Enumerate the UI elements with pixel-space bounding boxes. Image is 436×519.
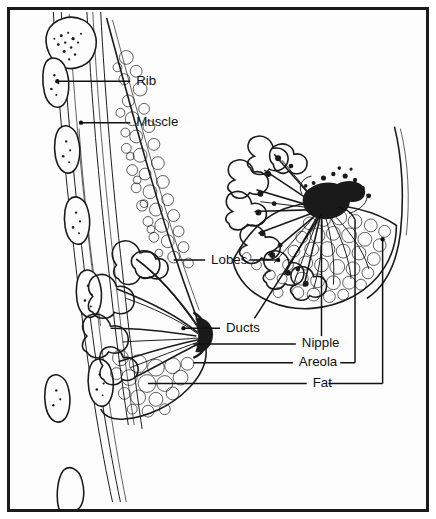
nipple-areola-frontal xyxy=(300,166,371,219)
label-rib: Rib xyxy=(136,73,156,88)
rib-cross-sections xyxy=(43,17,114,509)
leader-dot-rib xyxy=(55,79,59,83)
label-fat: Fat xyxy=(313,375,333,390)
label-areola: Areola xyxy=(299,354,338,369)
nipple-areola-lateral xyxy=(193,312,213,357)
anatomy-illustration: Rib Muscle Lobes Ducts Nipple Areola Fat xyxy=(10,10,426,509)
rib-4 xyxy=(64,197,89,244)
ducts-lateral xyxy=(111,259,200,378)
label-nipple: Nipple xyxy=(302,335,340,350)
rib-8 xyxy=(57,468,83,509)
ducts-frontal xyxy=(254,154,368,288)
figure-root: Rib Muscle Lobes Ducts Nipple Areola Fat xyxy=(0,0,436,519)
rib-3 xyxy=(55,126,80,173)
rib-6 xyxy=(88,359,113,406)
leader-dot-lobes xyxy=(276,258,280,262)
label-muscle: Muscle xyxy=(136,114,178,129)
leader-dot-fat xyxy=(380,237,384,241)
label-lobes: Lobes xyxy=(211,251,248,266)
label-ducts: Ducts xyxy=(226,320,260,335)
fat-lobules-lateral xyxy=(111,51,194,418)
frontal-view-group xyxy=(226,127,408,309)
diagram-frame: Rib Muscle Lobes Ducts Nipple Areola Fat xyxy=(7,7,429,512)
rib-7 xyxy=(45,375,70,422)
leader-dot-muscle xyxy=(79,120,83,124)
leader-dot-ducts xyxy=(181,326,185,330)
